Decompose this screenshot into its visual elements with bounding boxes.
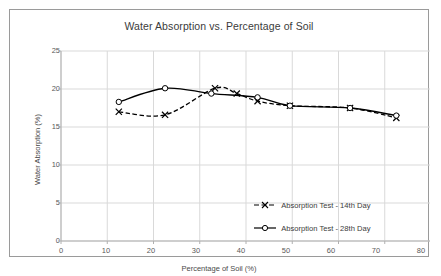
legend-label-14th-day: Absorption Test - 14th Day — [281, 201, 370, 210]
data-point-marker — [209, 91, 214, 96]
data-point-marker — [287, 103, 292, 108]
gridlines — [61, 51, 430, 241]
plot-area — [10, 10, 430, 258]
x-axis-title: Percentage of Soil (%) — [10, 264, 428, 273]
axis-lines — [58, 51, 430, 244]
data-point-marker — [255, 95, 260, 100]
data-series-layer — [116, 85, 400, 121]
legend-item-14th-day[interactable]: Absorption Test - 14th Day — [254, 200, 370, 210]
series-1 — [116, 85, 400, 121]
data-point-marker — [116, 99, 121, 104]
legend-item-28th-day[interactable]: Absorption Test - 28th Day — [254, 223, 370, 233]
data-point-marker — [394, 113, 399, 118]
legend-swatch-14th-day — [254, 200, 276, 210]
legend-label-28th-day: Absorption Test - 28th Day — [281, 224, 370, 233]
data-point-marker — [162, 86, 167, 91]
data-point-marker — [347, 105, 352, 110]
series-line — [119, 87, 397, 118]
chart-container: Water Absorption vs. Percentage of Soil … — [9, 9, 429, 257]
legend-swatch-28th-day — [254, 223, 276, 233]
